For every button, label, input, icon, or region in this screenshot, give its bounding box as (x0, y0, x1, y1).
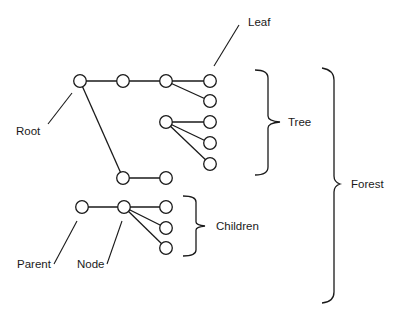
leaf-node (204, 95, 217, 108)
leaf-pointer (214, 25, 239, 66)
tree-1-edges (80, 81, 210, 178)
parent-pointer (54, 221, 77, 264)
leaf-label: Leaf (248, 16, 271, 28)
leaf-node (204, 75, 217, 88)
tree-2-nodes (76, 201, 173, 255)
child-node (160, 222, 173, 235)
tree-bracket (255, 70, 280, 175)
root-label: Root (16, 125, 41, 137)
tree-node (160, 75, 173, 88)
leaf-node (204, 116, 217, 129)
tree-1-nodes (74, 75, 217, 185)
forest-bracket (322, 68, 340, 303)
node-label: Node (77, 258, 105, 270)
leaf-node (160, 172, 173, 185)
child-node (160, 242, 173, 255)
tree-node (117, 172, 130, 185)
parent-label: Parent (17, 258, 52, 270)
tree-node (117, 75, 130, 88)
tree-label: Tree (288, 116, 311, 128)
node-node (118, 201, 131, 214)
forest-label: Forest (351, 178, 384, 190)
tree-node (160, 116, 173, 129)
root-pointer (48, 93, 72, 124)
children-bracket (183, 196, 205, 256)
children-label: Children (216, 220, 259, 232)
node-pointer (107, 221, 122, 264)
tree-diagram: Leaf Root Tree Forest Children Parent No… (0, 0, 394, 315)
child-node (160, 201, 173, 214)
leaf-node (204, 158, 217, 171)
parent-node (76, 201, 89, 214)
root-node (74, 75, 87, 88)
leaf-node (204, 137, 217, 150)
